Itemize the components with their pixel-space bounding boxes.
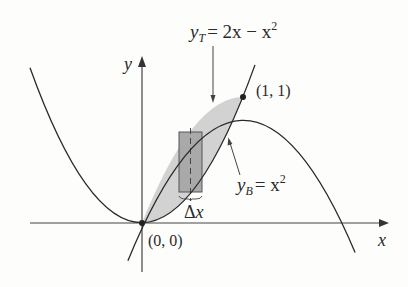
- bottom-curve-label: yB= x2: [235, 172, 286, 198]
- delta-x-label: Δx: [184, 202, 204, 222]
- y-axis-label: y: [122, 54, 132, 74]
- y-axis-arrow-icon: [138, 56, 146, 67]
- point-1-1: [240, 94, 246, 100]
- area-between-curves-diagram: yT= 2x − x2 yB= x2 (1, 1) (0, 0) y x Δx: [0, 0, 408, 287]
- bottom-curve-pointer: [230, 143, 240, 175]
- top-curve-pointer-arrowhead-icon: [211, 95, 216, 103]
- point-1-1-label: (1, 1): [256, 82, 291, 100]
- bottom-curve-pointer-arrowhead-icon: [228, 138, 233, 146]
- point-origin-label: (0, 0): [148, 232, 183, 250]
- x-axis-label: x: [377, 230, 386, 250]
- x-axis-arrow-icon: [379, 219, 389, 227]
- top-curve-label: yT= 2x − x2: [188, 19, 277, 45]
- point-origin: [139, 220, 145, 226]
